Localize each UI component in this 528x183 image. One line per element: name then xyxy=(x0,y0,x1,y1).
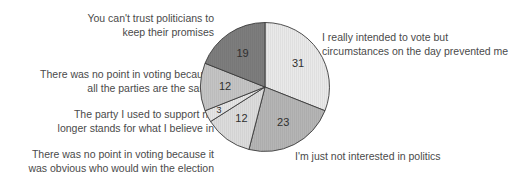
pie-label-promises: You can't trust politicians to keep thei… xyxy=(46,12,214,39)
pie-label-party-no-longer-stands: The party I used to support no longer st… xyxy=(22,108,214,135)
pie-slice-value: 31 xyxy=(292,57,304,69)
pie-slice-value: 12 xyxy=(235,112,247,124)
pie-label-not-interested: I'm just not interested in politics xyxy=(295,150,495,164)
pie-label-obvious-winner: There was no point in voting because it … xyxy=(14,148,214,175)
pie-label-all-parties-same: There was no point in voting because all… xyxy=(12,68,214,95)
pie-chart-svg: 31231231219 xyxy=(200,22,330,152)
pie-slice-value: 23 xyxy=(277,116,289,128)
pie-slice-value: 19 xyxy=(236,47,248,59)
pie-chart: 31231231219 xyxy=(200,22,330,152)
pie-slice-value: 12 xyxy=(219,80,231,92)
pie-chart-figure: You can't trust politicians to keep thei… xyxy=(0,0,528,183)
pie-label-intended-to-vote: I really intended to vote but circumstan… xyxy=(322,31,524,58)
pie-slice-value: 3 xyxy=(217,105,222,115)
